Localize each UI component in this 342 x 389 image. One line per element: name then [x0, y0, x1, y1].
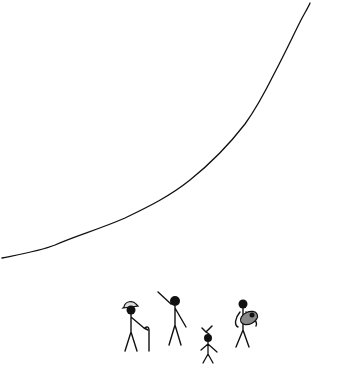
old-man-figure: [123, 302, 149, 351]
cane: [145, 327, 149, 351]
head: [170, 296, 180, 306]
head: [239, 300, 248, 309]
head: [204, 334, 212, 342]
comic-panel: [0, 0, 342, 389]
bow-icon: [202, 326, 212, 334]
head: [127, 306, 136, 315]
growth-curve: [2, 3, 310, 258]
baby-head: [250, 313, 255, 318]
pointing-person-figure: [158, 292, 186, 345]
child-figure: [201, 326, 217, 363]
parent-with-baby-figure: [236, 300, 260, 348]
